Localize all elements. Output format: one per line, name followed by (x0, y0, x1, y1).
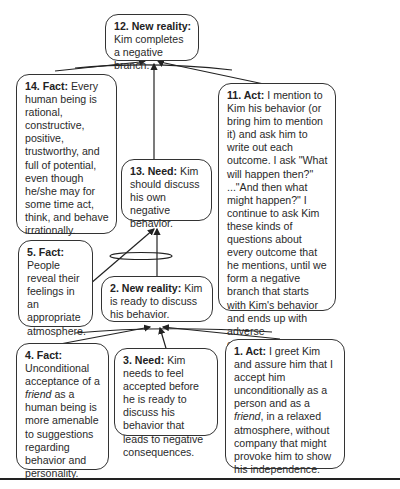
node-label: 5. Fact: (27, 246, 64, 258)
node-4-fact: 4. Fact: Unconditional acceptance of a f… (16, 343, 109, 470)
node-label: 4. Fact: (25, 349, 62, 361)
node-label: 12. New reality: (114, 20, 191, 32)
node-11-act: 11. Act: I mention to Kim his behavior (… (218, 83, 336, 311)
node-text: Every human being is rational, construct… (25, 80, 109, 236)
node-13-need: 13. Need: Kim should discuss his own neg… (121, 159, 212, 221)
bottom-divider (0, 478, 400, 480)
node-label: 1. Act: (234, 345, 266, 357)
node-text-italic: friend (234, 410, 261, 422)
node-label: 2. New reality: (110, 282, 181, 294)
node-text: People reveal their feelings in an appro… (27, 259, 86, 336)
node-label: 13. Need: (130, 165, 177, 177)
node-14-fact: 14. Fact: Every human being is rational,… (16, 74, 117, 234)
node-2-new-reality: 2. New reality: Kim is ready to discuss … (101, 276, 213, 322)
node-1-act: 1. Act: I greet Kim and assure him that … (225, 339, 345, 469)
node-text-italic: friend (25, 388, 52, 400)
node-label: 3. Need: (123, 354, 164, 366)
node-text-post: as a human being is more amenable to sug… (25, 388, 99, 479)
node-5-fact: 5. Fact: People reveal their feelings in… (18, 240, 93, 327)
node-12-new-reality: 12. New reality: Kim completes a negativ… (105, 14, 199, 61)
node-text-pre: Unconditional acceptance of a (25, 362, 100, 387)
node-3-need: 3. Need: Kim needs to feel accepted befo… (114, 348, 218, 436)
node-label: 14. Fact: (25, 80, 68, 92)
node-text: Kim needs to feel accepted before he is … (123, 354, 203, 458)
node-label: 11. Act: (227, 89, 264, 101)
